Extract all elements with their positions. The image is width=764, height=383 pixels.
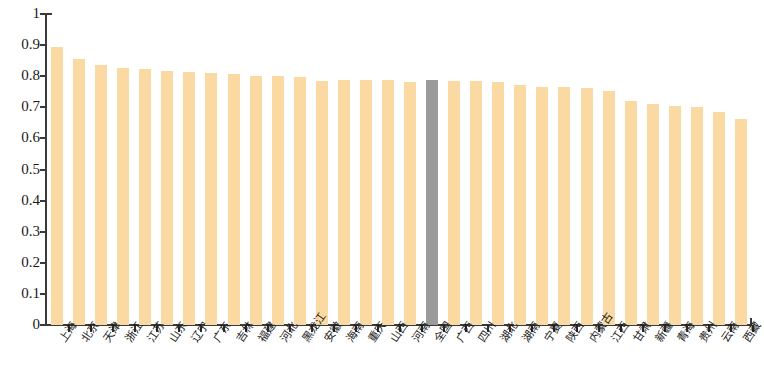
bar — [514, 85, 526, 325]
bar — [492, 82, 504, 326]
bar — [382, 80, 394, 325]
bar — [713, 112, 725, 325]
bar — [625, 101, 637, 325]
y-tick-label: 0.3 — [21, 224, 40, 239]
bar — [205, 73, 217, 325]
y-tick-label: 0.5 — [21, 162, 40, 177]
bar — [691, 107, 703, 325]
bar — [448, 81, 460, 325]
bar — [183, 72, 195, 325]
bar — [426, 80, 438, 325]
bar — [161, 71, 173, 325]
bar — [558, 87, 570, 325]
bar — [603, 91, 615, 325]
bar — [228, 74, 240, 325]
bar — [95, 65, 107, 325]
bar — [735, 119, 747, 325]
y-tick-label: 0.8 — [21, 68, 40, 83]
bar — [360, 80, 372, 325]
bar — [536, 87, 548, 325]
y-tick-label: 0.4 — [21, 193, 40, 208]
bar — [581, 88, 593, 325]
bar — [470, 81, 482, 325]
y-tick-label: 0 — [33, 317, 41, 332]
plot-area — [46, 14, 752, 325]
bar — [139, 69, 151, 325]
bar — [73, 59, 85, 325]
bar — [117, 68, 129, 325]
y-tick-label: 0.1 — [21, 286, 40, 301]
y-tick-label: 0.6 — [21, 130, 40, 145]
y-tick-label: 0.2 — [21, 255, 40, 270]
bar — [404, 82, 416, 326]
bar — [338, 80, 350, 325]
bar — [669, 106, 681, 325]
y-tick-label: 0.9 — [21, 37, 40, 52]
y-tick-label: 0.7 — [21, 99, 40, 114]
bar — [294, 77, 306, 325]
bar — [647, 104, 659, 325]
bar — [316, 81, 328, 325]
bar — [250, 76, 262, 325]
bar — [272, 76, 284, 325]
y-tick-label: 1 — [33, 6, 41, 21]
bar — [51, 47, 63, 325]
